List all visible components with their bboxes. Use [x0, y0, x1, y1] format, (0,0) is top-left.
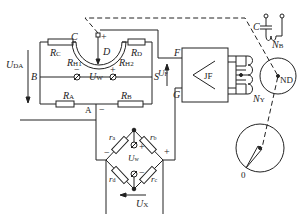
resistor-ra	[56, 101, 74, 107]
ux-arrow	[120, 193, 146, 197]
label-minus-a: −	[99, 104, 105, 115]
label-c: C	[71, 31, 78, 42]
indicator-dial	[236, 124, 284, 172]
resistor-rd	[128, 39, 145, 45]
label-plus-d: +	[101, 31, 107, 42]
label-zero: 0	[241, 170, 246, 180]
label-nb: NB	[271, 39, 284, 50]
label-ny: NY	[252, 93, 265, 104]
label-a: A	[85, 105, 92, 115]
label-f: F	[173, 47, 181, 58]
label-rc: RC	[49, 47, 61, 58]
resistor-rb	[118, 101, 143, 107]
label-rb: RB	[120, 90, 132, 101]
label-nd: ND	[280, 75, 293, 85]
compensation-bridge	[106, 128, 163, 214]
label-rd: RD	[130, 47, 142, 58]
label-jf: JF	[204, 71, 213, 81]
label-rc-small: rc	[151, 174, 158, 184]
label-plus-right: +	[164, 146, 170, 157]
label-ra-small: ra	[109, 132, 116, 142]
winding-nb	[260, 14, 284, 41]
label-b: B	[31, 71, 37, 82]
label-g: G	[173, 89, 180, 100]
label-ux: UX	[136, 198, 148, 209]
winding-ny	[228, 56, 253, 94]
label-uw: UW	[89, 71, 103, 82]
label-rb-small: rb	[150, 132, 157, 142]
label-ra: RA	[62, 90, 74, 101]
circuit-diagram: RC RD C D + RH1 RH2 − + UW B S UDA RA RB…	[0, 0, 306, 214]
label-cap-c: C	[253, 21, 260, 32]
label-minus-rh1: −	[74, 64, 80, 75]
label-plus-rh2: +	[110, 64, 116, 75]
label-uw-small: Uw	[128, 153, 140, 163]
label-rh2: RH2	[118, 57, 134, 68]
label-rd-small: rd	[109, 174, 116, 184]
label-d: D	[102, 46, 111, 57]
label-minus-left: −	[104, 147, 110, 158]
label-plus-top: +	[139, 141, 145, 152]
label-uda: UDA	[6, 59, 23, 70]
uda-arrow	[26, 50, 30, 103]
resistor-rc	[48, 39, 73, 45]
label-minus-bottom: −	[139, 167, 145, 178]
